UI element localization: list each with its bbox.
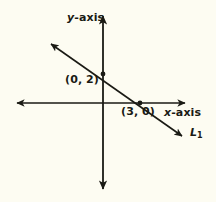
figure-canvas: [0, 0, 216, 202]
y-axis-label: y-axis: [67, 12, 104, 24]
coordinate-plane-figure: y-axis x-axis (0, 2) (3, 0) L1: [0, 0, 216, 202]
line-label-l1: L1: [190, 127, 203, 140]
line-label-subscript: 1: [197, 131, 203, 140]
point-label-y-intercept: (0, 2): [65, 74, 99, 86]
y-axis-label-suffix: -axis: [74, 11, 104, 24]
line-l1: [51, 44, 182, 136]
x-axis-label: x-axis: [164, 107, 201, 119]
data-point-0-2: [101, 72, 106, 77]
x-axis-label-suffix: -axis: [171, 106, 201, 119]
point-label-x-intercept: (3, 0): [121, 106, 155, 118]
